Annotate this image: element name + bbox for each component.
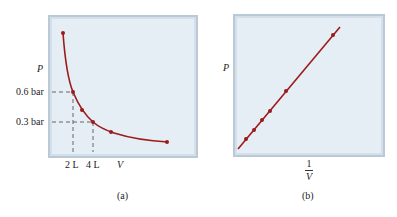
x-label-numerator: 1 <box>307 158 312 169</box>
x-label-denominator: V <box>306 171 312 182</box>
p-inverse-v-plot-b <box>0 0 397 217</box>
y-axis-label-b: P <box>223 63 229 73</box>
x-axis-label-b: 1 V <box>303 159 315 182</box>
caption-b: (b) <box>302 191 314 201</box>
